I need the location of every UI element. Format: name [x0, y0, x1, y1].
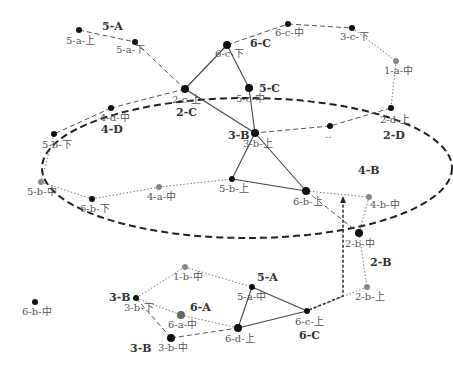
node-label: 6-b-中 — [22, 305, 52, 317]
node-label: 3-c-下 — [340, 31, 369, 42]
node-label: 5-b-下 — [42, 139, 72, 150]
group-label: 2-C — [176, 106, 197, 119]
node-5-b-中 — [38, 179, 44, 185]
node-label: 2-c-上 — [172, 94, 201, 105]
node-6-b-下 — [89, 196, 95, 202]
group-label: 5-C — [259, 82, 280, 95]
node-6-b-上 — [302, 187, 310, 195]
arrowhead-icon — [340, 196, 346, 203]
node-label: 6-c-中 — [275, 26, 304, 38]
node-label: 4-d-中 — [100, 111, 130, 123]
node-6-b-中 — [32, 299, 38, 305]
arrow-path — [309, 198, 343, 310]
network-diagram: 5-a-上5-a-下6-c-中3-c-下6-c-下1-a-中2-c-上5-c-中… — [0, 0, 453, 373]
node-2-d-上 — [388, 105, 394, 111]
node-5-b-上 — [229, 176, 235, 182]
node-label: 6-d-上 — [225, 333, 255, 344]
node-label: 5-a-下 — [116, 44, 145, 55]
group-label: 6-C — [250, 37, 271, 50]
node-label: ‥ — [325, 129, 332, 140]
node-1-b-中 — [182, 264, 188, 270]
node-6-d-上 — [234, 324, 242, 332]
node-label: 6-b-上 — [293, 196, 323, 207]
node-4-a-中 — [156, 184, 162, 190]
node-2-c-上 — [181, 85, 189, 93]
node-3-b-上 — [251, 129, 259, 137]
node-6-c-上 — [304, 308, 310, 314]
node-3-b-中 — [167, 334, 175, 342]
group-label: 3-B — [109, 291, 131, 304]
node-5-a-上 — [76, 27, 82, 33]
node-label: 1-b-中 — [173, 270, 203, 282]
node-2-b-上 — [364, 284, 370, 290]
node-3-b-下 — [133, 295, 139, 301]
arrow-layer — [309, 196, 346, 310]
node-5-a-中 — [249, 284, 255, 290]
node-label: 6-a-中 — [168, 318, 197, 330]
group-label: 3-B — [130, 342, 152, 355]
node-label: 5-b-中 — [27, 185, 57, 197]
node-label: 2-b-上 — [355, 291, 385, 302]
node-1-a-中 — [393, 58, 399, 64]
node-5-c-中 — [245, 84, 253, 92]
node-label: 1-a-中 — [384, 64, 413, 76]
group-label: 3-B — [228, 129, 250, 142]
group-label: 6-A — [190, 301, 211, 314]
node-label: 4-a-中 — [147, 190, 176, 202]
edge-dotted — [359, 197, 369, 233]
edge-dashed — [255, 126, 330, 133]
node-label: 6-c-上 — [295, 316, 324, 327]
node-label: 5-b-上 — [219, 183, 249, 194]
node-6-a-中 — [177, 311, 185, 319]
node-label: 3-b-中 — [158, 341, 188, 353]
node-5-b-下 — [51, 131, 57, 137]
group-label: 2-B — [370, 256, 392, 269]
node-label: 2-b-中 — [345, 237, 375, 249]
node-label: 2-d-上 — [380, 114, 410, 125]
group-label: 6-C — [299, 329, 320, 342]
label-layer: 5-a-上5-a-下6-c-中3-c-下6-c-下1-a-中2-c-上5-c-中… — [22, 26, 413, 353]
node-layer — [32, 21, 399, 342]
group-label: 4-B — [358, 164, 380, 177]
node-label: 5-a-上 — [66, 35, 95, 46]
group-label: 2-D — [383, 129, 405, 142]
group-label: 5-A — [102, 20, 123, 33]
group-label: 4-D — [101, 123, 123, 136]
node-4-d-中 — [108, 105, 114, 111]
node-label: 6-c-下 — [215, 48, 244, 59]
node-label: 6-b-下 — [80, 203, 110, 214]
node-label: 4-b-中 — [370, 198, 400, 210]
group-label: 5-A — [257, 271, 278, 284]
node-2-b-中 — [355, 229, 363, 237]
node-label: 5-a-中 — [237, 290, 266, 302]
